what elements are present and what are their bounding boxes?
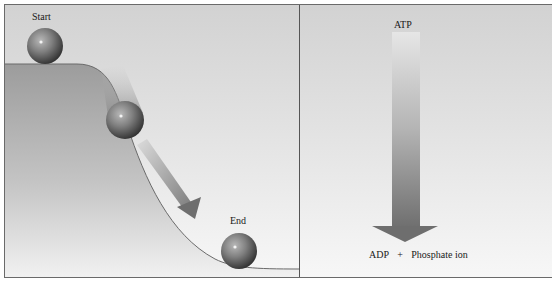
label-start: Start [32,11,51,22]
ball-end [221,233,257,269]
ball-middle [106,101,144,139]
ball-start [27,28,63,64]
left-panel-downhill: Start End [5,5,299,277]
label-adp: ADP [369,249,389,260]
label-products: ADP + Phosphate ion [369,249,468,260]
right-panel-atp: ATP ADP + Phosphate ion [300,5,552,277]
label-end: End [230,215,246,226]
label-plus: + [397,249,403,260]
energy-down-arrow-icon [372,32,438,242]
downhill-illustration [5,5,299,277]
label-atp: ATP [394,19,412,30]
atp-arrow-illustration [300,5,552,277]
label-phosphate-ion: Phosphate ion [411,249,467,260]
figure-frame: Start End ATP ADP + Phosphate ion [4,4,552,278]
